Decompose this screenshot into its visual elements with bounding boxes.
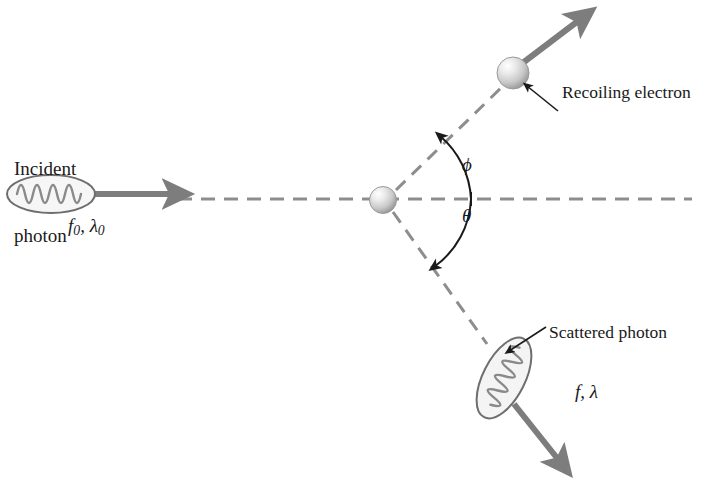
incident-wavelength-symbol: λ: [90, 215, 98, 236]
electron-path-dashed-line: [396, 86, 503, 190]
incident-wavelength-subscript: 0: [98, 223, 105, 238]
scattered-photon-symbols-label: f, λ: [575, 381, 598, 403]
incident-photon-label-line2: photon: [14, 225, 76, 247]
incident-photon-label: Incident photon: [14, 113, 76, 292]
scattered-photon-ellipse: [465, 329, 542, 426]
scattered-photon-path-dashed-line: [393, 212, 487, 344]
symbols-comma: ,: [80, 215, 90, 236]
incident-photon-symbols-label: f0, λ0: [68, 215, 105, 239]
compton-scattering-figure: Incident photon f0, λ0 Recoiling electro…: [0, 0, 726, 481]
diagram-canvas: [0, 0, 726, 481]
recoiling-electron-sphere: [497, 57, 529, 89]
target-electron-sphere: [370, 187, 397, 214]
incident-photon-label-line1: Incident: [14, 158, 76, 180]
recoiling-electron-momentum-arrow: [520, 18, 582, 65]
phi-angle-label: ϕ: [462, 154, 472, 176]
theta-angle-label: θ: [462, 205, 471, 227]
scattered-photon-arrow: [514, 404, 561, 463]
recoiling-electron-pointer-arrow: [527, 86, 558, 111]
recoiling-electron-label: Recoiling electron: [562, 82, 691, 103]
scattered-photon-label: Scattered photon: [549, 322, 667, 343]
